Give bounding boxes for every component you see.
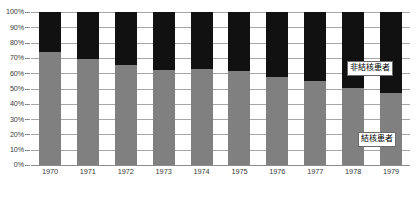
y-tick-mark xyxy=(25,119,30,120)
y-tick-label: 20% xyxy=(10,131,24,138)
bar-segment-tb xyxy=(228,71,250,165)
x-tick-label: 1975 xyxy=(219,168,259,175)
y-tick-mark xyxy=(25,104,30,105)
bar-segment-non-tb xyxy=(228,12,250,71)
x-tick-label: 1977 xyxy=(295,168,335,175)
y-tick-label: 10% xyxy=(10,146,24,153)
bar-group xyxy=(115,12,137,165)
bar-group xyxy=(39,12,61,165)
y-tick-mark xyxy=(25,58,30,59)
gridline xyxy=(31,165,410,166)
y-tick-mark xyxy=(25,134,30,135)
bar-segment-tb xyxy=(342,88,364,165)
x-tick-label: 1979 xyxy=(371,168,411,175)
bar-segment-tb xyxy=(153,70,175,165)
y-axis: 0%10%20%30%40%50%60%70%80%90%100% xyxy=(0,12,24,165)
y-tick-label: 70% xyxy=(10,54,24,61)
y-tick-mark xyxy=(25,73,30,74)
y-tick-label: 40% xyxy=(10,100,24,107)
x-tick-label: 1970 xyxy=(30,168,70,175)
y-tick-mark xyxy=(25,89,30,90)
x-tick-label: 1974 xyxy=(182,168,222,175)
bar-segment-tb xyxy=(304,81,326,165)
bar-segment-non-tb xyxy=(304,12,326,81)
y-tick-mark xyxy=(25,12,30,13)
bar-group xyxy=(266,12,288,165)
bar-segment-tb xyxy=(39,52,61,165)
bar-group xyxy=(77,12,99,165)
bar-segment-tb xyxy=(266,77,288,165)
bar-segment-tb xyxy=(77,59,99,165)
x-tick-label: 1972 xyxy=(106,168,146,175)
bar-group xyxy=(228,12,250,165)
stacked-bar-chart: 0%10%20%30%40%50%60%70%80%90%100% 非結核患者 … xyxy=(0,0,418,201)
y-tick-label: 50% xyxy=(10,85,24,92)
x-tick-label: 1978 xyxy=(333,168,373,175)
x-tick-label: 1976 xyxy=(257,168,297,175)
bar-segment-non-tb xyxy=(266,12,288,77)
y-tick-label: 90% xyxy=(10,24,24,31)
bar-segment-non-tb xyxy=(77,12,99,59)
y-tick-mark xyxy=(25,165,30,166)
bar-segment-non-tb xyxy=(342,12,364,88)
y-tick-label: 30% xyxy=(10,116,24,123)
y-tick-label: 100% xyxy=(6,8,24,15)
bar-segment-non-tb xyxy=(380,12,402,93)
bar-segment-non-tb xyxy=(191,12,213,69)
y-tick-label: 80% xyxy=(10,39,24,46)
plot-area: 非結核患者 結核患者 xyxy=(31,12,410,165)
y-tick-mark xyxy=(25,150,30,151)
bar-group xyxy=(153,12,175,165)
y-tick-label: 0% xyxy=(14,161,24,168)
x-axis: 1970197119721973197419751976197719781979 xyxy=(31,168,410,182)
y-tick-mark xyxy=(25,43,30,44)
y-tick-mark xyxy=(25,27,30,28)
x-tick-label: 1971 xyxy=(68,168,108,175)
bar-segment-non-tb xyxy=(39,12,61,52)
bar-segment-non-tb xyxy=(153,12,175,70)
legend-label-non-tb: 非結核患者 xyxy=(347,61,393,76)
bar-group xyxy=(191,12,213,165)
bar-segment-non-tb xyxy=(115,12,137,65)
bar-segment-tb xyxy=(380,93,402,165)
y-tick-label: 60% xyxy=(10,70,24,77)
bar-group xyxy=(304,12,326,165)
bar-segment-tb xyxy=(191,69,213,165)
legend-label-tb: 結核患者 xyxy=(358,132,396,147)
bar-segment-tb xyxy=(115,65,137,165)
x-tick-label: 1973 xyxy=(144,168,184,175)
